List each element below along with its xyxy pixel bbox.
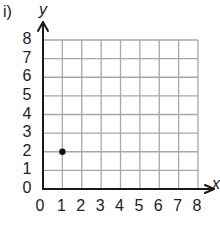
data-points bbox=[59, 149, 65, 155]
data-point bbox=[59, 149, 65, 155]
y-tick-label: 7 bbox=[20, 50, 34, 66]
y-tick-label: 4 bbox=[20, 106, 34, 122]
x-tick-label: 2 bbox=[74, 198, 88, 214]
y-tick-label: 0 bbox=[20, 180, 34, 196]
x-tick-label: 1 bbox=[54, 198, 68, 214]
x-tick-label: 0 bbox=[33, 198, 47, 214]
x-tick-label: 3 bbox=[93, 198, 107, 214]
x-tick-label: 4 bbox=[113, 198, 127, 214]
x-tick-label: 7 bbox=[171, 198, 185, 214]
y-tick-label: 1 bbox=[20, 161, 34, 177]
x-tick-label: 8 bbox=[190, 198, 204, 214]
y-tick-label: 6 bbox=[20, 68, 34, 84]
grid-lines bbox=[43, 40, 198, 189]
axes bbox=[38, 22, 214, 193]
x-tick-label: 5 bbox=[132, 198, 146, 214]
y-tick-label: 8 bbox=[20, 31, 34, 47]
x-tick-label: 6 bbox=[151, 198, 165, 214]
y-tick-label: 2 bbox=[20, 143, 34, 159]
y-tick-label: 5 bbox=[20, 87, 34, 103]
y-tick-label: 3 bbox=[20, 124, 34, 140]
